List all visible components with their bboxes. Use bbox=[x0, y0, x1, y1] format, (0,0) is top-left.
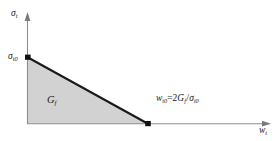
fracture-energy-label: Gf bbox=[47, 95, 57, 107]
fracture-energy-subscript: f bbox=[55, 99, 57, 106]
x-axis-subscript: t bbox=[265, 129, 267, 136]
softening-curve-figure: σt wt σt0 Gf wt0=2Gf/σt0 bbox=[0, 0, 280, 141]
formula-denominator-subscript: t0 bbox=[194, 97, 199, 104]
yield-stress-subscript: t0 bbox=[13, 55, 18, 62]
fracture-energy-symbol: G bbox=[47, 94, 55, 105]
marker-w-t0 bbox=[145, 121, 151, 126]
wt0-formula-label: wt0=2Gf/σt0 bbox=[156, 94, 199, 104]
x-axis-label: wt bbox=[259, 126, 267, 136]
plot-canvas bbox=[0, 0, 280, 141]
y-axis-arrowhead bbox=[25, 12, 31, 21]
y-axis-subscript: t bbox=[16, 12, 18, 19]
y-axis-label: σt bbox=[11, 9, 17, 19]
marker-sigma-t0 bbox=[25, 55, 31, 60]
yield-stress-label: σt0 bbox=[8, 52, 18, 62]
